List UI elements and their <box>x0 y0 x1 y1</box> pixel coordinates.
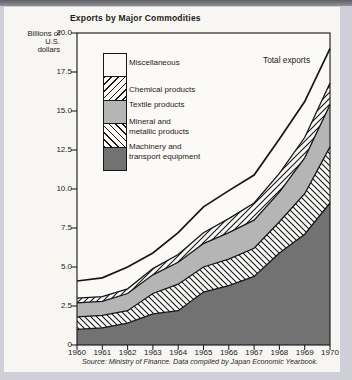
y-tick-label: 20.0 <box>38 28 72 37</box>
x-tick-label: 1968 <box>265 348 293 357</box>
legend-label-textile-products: Textile products <box>129 100 185 110</box>
scan-top-edge <box>0 0 352 6</box>
x-tick-label: 1962 <box>114 348 142 357</box>
legend-swatch-mineral-and-metallic-products <box>104 123 126 146</box>
y-tick-label: 10.0 <box>38 184 72 193</box>
legend-label-miscellaneous: Miscellaneous <box>129 58 180 68</box>
legend-label-mineral-and-metallic-products: Mineral and metallic products <box>129 117 189 136</box>
legend-swatch-miscellaneous <box>104 54 126 76</box>
x-tick-label: 1963 <box>139 348 167 357</box>
x-tick-label: 1970 <box>316 348 344 357</box>
legend-swatch-column <box>103 53 127 171</box>
y-tick-label: 5.0 <box>38 262 72 271</box>
x-tick-label: 1967 <box>240 348 268 357</box>
legend-label-chemical-products: Chemical products <box>129 85 195 95</box>
x-tick-label: 1965 <box>190 348 218 357</box>
y-tick-label: 2.5 <box>38 301 72 310</box>
y-axis-unit-line3: dollars <box>20 46 60 54</box>
legend-swatch-textile-products <box>104 100 126 123</box>
legend-swatch-machinery-and-transport-equipment <box>104 147 126 170</box>
x-tick-label: 1961 <box>88 348 116 357</box>
x-tick-label: 1964 <box>164 348 192 357</box>
y-tick-label: 15.0 <box>38 106 72 115</box>
y-tick-label: 17.5 <box>38 67 72 76</box>
x-tick-label: 1960 <box>63 348 91 357</box>
chart-legend: MiscellaneousChemical productsTextile pr… <box>103 53 323 178</box>
legend-swatch-chemical-products <box>104 76 126 99</box>
chart-title: Exports by Major Commodities <box>70 13 270 23</box>
y-tick-label: 7.5 <box>38 223 72 232</box>
y-tick-label: 12.5 <box>38 145 72 154</box>
source-note: Source: Ministry of Finance. Data compil… <box>60 357 340 366</box>
x-tick-label: 1969 <box>291 348 319 357</box>
legend-label-machinery-and-transport-equipment: Machinery and transport equipment <box>129 142 200 161</box>
scanned-figure-page: Exports by Major Commodities Billions of… <box>0 0 352 380</box>
x-tick-label: 1966 <box>215 348 243 357</box>
